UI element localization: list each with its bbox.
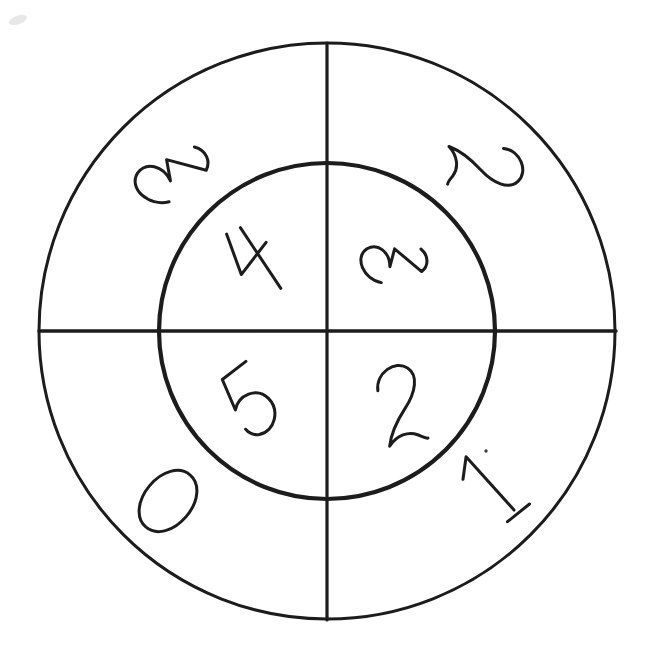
hand-drawn-wheel-diagram	[0, 0, 648, 653]
inner-circle-number-bottom-right-digit-2	[374, 362, 428, 446]
outer-ring-number-bottom-left-digit-0	[128, 459, 209, 542]
outer-ring-number-top-right-digit-2	[448, 146, 524, 186]
inner-circle-number-top-right-digit-3	[360, 242, 429, 284]
outer-ring-number-top-left-digit-3	[130, 138, 217, 213]
outer-ring-number-bottom-right-digit-1	[453, 448, 529, 526]
inner-circle-number-bottom-left-digit-5	[214, 361, 286, 440]
ink-speck	[484, 449, 487, 452]
paper-smudge	[8, 13, 29, 27]
scanned-drawing-page	[0, 0, 648, 653]
inner-circle-number-top-left-digit-4	[214, 218, 297, 301]
